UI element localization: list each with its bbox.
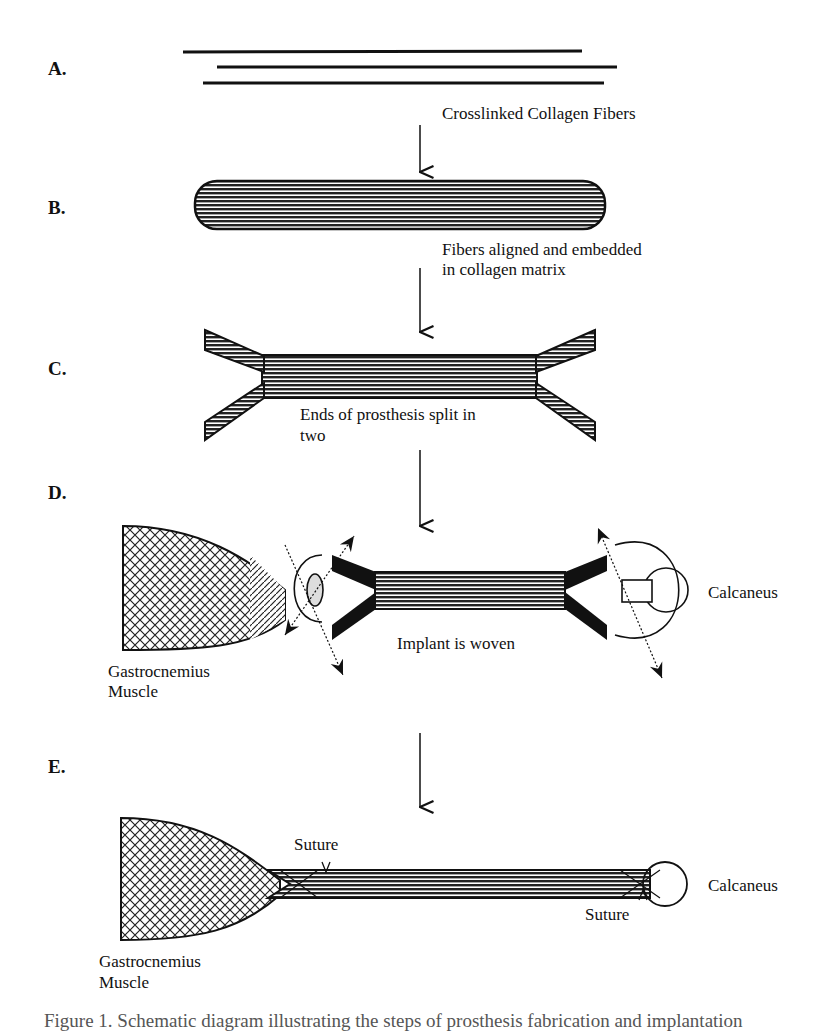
step-d-muscle-label-1: Gastrocnemius <box>108 662 210 681</box>
step-b-caption-1: Fibers aligned and embedded <box>442 240 642 259</box>
step-d-muscle-label-2: Muscle <box>108 682 158 701</box>
gastrocnemius-muscle-e <box>121 818 280 940</box>
step-e-suture-bottom: Suture <box>585 905 629 924</box>
step-label-d: D. <box>48 482 66 504</box>
step-label-c: C. <box>48 358 66 380</box>
step-label-a: A. <box>48 58 66 80</box>
step-e-muscle-label-1: Gastrocnemius <box>99 952 201 971</box>
step-c-caption-1: Ends of prosthesis split in <box>300 405 476 424</box>
calcaneus-d <box>615 542 688 638</box>
aligned-fiber-bar <box>195 181 605 229</box>
step-label-b: B. <box>48 197 65 219</box>
gastrocnemius-muscle-d <box>123 526 285 650</box>
step-e-muscle-label-2: Muscle <box>99 973 149 992</box>
step-d-caption: Implant is woven <box>397 634 515 653</box>
figure-caption: Figure 1. Schematic diagram illustrating… <box>44 1010 743 1032</box>
step-c-caption-2: two <box>300 426 326 445</box>
collagen-fibers <box>183 51 617 83</box>
step-a-caption: Crosslinked Collagen Fibers <box>442 104 636 123</box>
step-b-caption-2: in collagen matrix <box>442 260 566 279</box>
step-e-suture-top: Suture <box>294 835 338 854</box>
weave-arrow-right <box>598 528 662 678</box>
step-e-calcaneus-label: Calcaneus <box>708 876 778 895</box>
woven-implant <box>332 555 607 640</box>
implanted-tendon <box>268 870 660 898</box>
step-label-e: E. <box>48 756 65 778</box>
step-d-calcaneus-label: Calcaneus <box>708 583 778 602</box>
muscle-stump-d <box>294 555 323 622</box>
